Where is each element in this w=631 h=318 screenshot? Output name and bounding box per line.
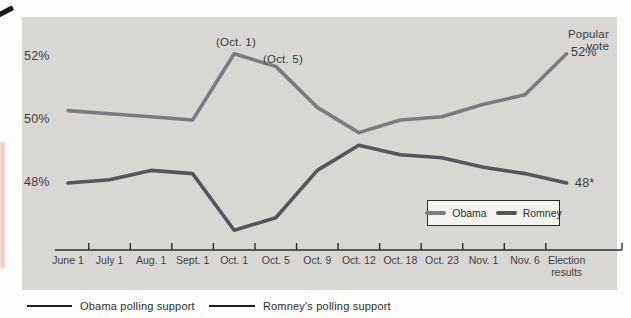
annotation-oct-5: (Oct. 5) (263, 53, 303, 65)
obama-caption-line (27, 305, 72, 307)
legend-label-obama: Obama (452, 207, 486, 219)
legend-item-romney: Romney (496, 207, 562, 219)
y-axis-label: 50% (24, 112, 50, 126)
figure-caption: Obama polling support Romney's polling s… (0, 295, 631, 317)
y-axis-label: 52% (24, 49, 50, 63)
chart-panel (22, 17, 617, 290)
annotation-popular-vote-value: 52% (571, 45, 597, 59)
romney-line-swatch (496, 211, 517, 215)
legend-label-romney: Romney (523, 207, 562, 219)
obama-caption-label: Obama polling support (80, 300, 195, 312)
y-axis-label: 48% (24, 175, 50, 189)
romney-caption-label: Romney's polling support (263, 300, 391, 312)
figure: 52%50%48% June 1July 1Aug. 1Sept. 1Oct. … (0, 0, 631, 318)
annotation-oct-1: (Oct. 1) (216, 36, 256, 48)
x-axis-label: Election results (540, 254, 594, 278)
obama-line-swatch (425, 211, 446, 215)
annotation-romney-final-value: 48* (575, 176, 594, 190)
chart-canvas (0, 0, 631, 318)
scan-page-edge (0, 142, 5, 268)
legend-box: Obama Romney (427, 200, 560, 226)
romney-caption-line (209, 305, 255, 307)
legend-item-obama: Obama (425, 207, 486, 219)
